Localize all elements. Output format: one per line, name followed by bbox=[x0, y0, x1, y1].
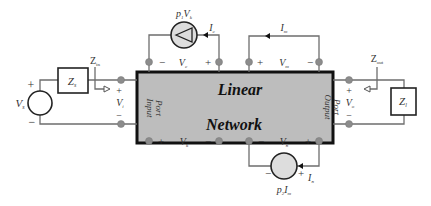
p2-minus: − bbox=[265, 167, 271, 179]
source-label: Vs bbox=[15, 97, 25, 110]
linear-network-block: Linear Network Input Port Output Port bbox=[137, 72, 342, 143]
vc-node-right bbox=[216, 59, 223, 66]
vi-label: Vi bbox=[116, 97, 124, 109]
in-label: In bbox=[307, 172, 314, 184]
vo-plus: + bbox=[346, 85, 352, 96]
vn-node-right bbox=[316, 138, 323, 145]
p2im-label: p2Im bbox=[276, 184, 292, 196]
linear-network-diagram: Linear Network Input Port Output Port Zs… bbox=[0, 0, 431, 206]
zout-label: Zout bbox=[371, 53, 384, 65]
output-port-label: Output Port bbox=[323, 94, 342, 120]
vn-minus: − bbox=[258, 135, 264, 147]
svg-text:Output: Output bbox=[323, 94, 333, 120]
vm-minus: − bbox=[307, 56, 313, 68]
p1vk-label: p1Vk bbox=[175, 8, 193, 20]
vo-label: Vo bbox=[346, 97, 355, 109]
network-title-line1: Linear bbox=[217, 81, 263, 98]
vn-plus: + bbox=[305, 135, 311, 147]
vm-label: Vm bbox=[279, 57, 289, 69]
vc-node-left bbox=[146, 59, 153, 66]
output-circuit: Zl Zout + Vo − bbox=[333, 53, 416, 128]
current-im-branch: Im + Vm − bbox=[246, 22, 323, 72]
vm-plus: + bbox=[257, 56, 263, 68]
vk-minus: − bbox=[205, 135, 211, 147]
vk-node-right bbox=[216, 138, 223, 145]
source-minus: − bbox=[29, 115, 36, 129]
input-node-bottom bbox=[118, 121, 125, 128]
im-label: Im bbox=[280, 22, 288, 34]
dependent-voltage-source: − + In p2Im − Vn + bbox=[246, 135, 323, 196]
vc-label: Vc bbox=[179, 57, 188, 69]
svg-text:Port: Port bbox=[332, 98, 342, 116]
zin-label: Zin bbox=[90, 55, 100, 67]
output-node-top bbox=[346, 77, 353, 84]
input-circuit: Zs + − Vs Zin + Vi − bbox=[15, 55, 137, 129]
vc-plus: + bbox=[205, 56, 211, 68]
vm-node-right bbox=[316, 59, 323, 66]
voltage-source-icon bbox=[28, 91, 52, 115]
output-node-bottom bbox=[346, 121, 353, 128]
vk-plus: + bbox=[158, 135, 164, 147]
ic-label: Ic bbox=[208, 22, 215, 34]
input-node-top bbox=[118, 77, 125, 84]
vk-port: + Vk − bbox=[146, 135, 223, 148]
zin-arrow-icon bbox=[104, 86, 110, 92]
p2-plus: + bbox=[298, 167, 304, 179]
vk-node-left bbox=[146, 138, 153, 145]
vo-minus: − bbox=[346, 110, 352, 121]
source-plus: + bbox=[28, 78, 35, 92]
vn-node-left bbox=[246, 138, 253, 145]
im-arrow-icon bbox=[265, 33, 270, 39]
ic-arrow-icon bbox=[203, 32, 208, 38]
zout-arrow-icon bbox=[364, 86, 370, 92]
vi-plus: + bbox=[116, 85, 122, 96]
vc-minus: − bbox=[159, 56, 165, 68]
network-title-line2: Network bbox=[205, 116, 262, 133]
svg-text:Port: Port bbox=[154, 99, 164, 117]
svg-text:Input: Input bbox=[145, 98, 155, 118]
dependent-current-source: p1Vk Ic − Vc + bbox=[146, 8, 223, 72]
input-port-label: Input Port bbox=[145, 98, 164, 118]
vm-node-left bbox=[246, 59, 253, 66]
voltage-source-dependent-icon bbox=[271, 153, 297, 179]
vi-minus: − bbox=[116, 110, 122, 121]
